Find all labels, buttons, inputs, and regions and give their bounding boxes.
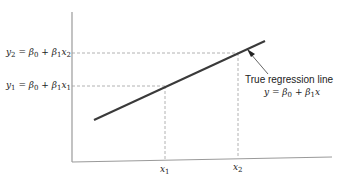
y1-sub: 1 bbox=[11, 84, 15, 92]
x1-label: x1 bbox=[160, 164, 170, 174]
y1-label: y1 = β0 + β1x1 bbox=[6, 80, 71, 90]
x2-label: x2 bbox=[233, 162, 243, 172]
x2-sub: 2 bbox=[238, 166, 242, 174]
eq-beta0-sub: 0 bbox=[288, 91, 292, 99]
beta0-sub: 0 bbox=[34, 51, 38, 59]
x-sub: 2 bbox=[67, 51, 71, 59]
beta0-sub: 0 bbox=[34, 84, 38, 92]
pointer-arrow-head bbox=[247, 49, 255, 57]
regression-diagram: y2 = β0 + β1x2 y1 = β0 + β1x1 x1 x2 True… bbox=[0, 0, 340, 180]
x1-sub: 1 bbox=[165, 168, 169, 176]
eq-x: x bbox=[315, 87, 320, 97]
x-axis bbox=[72, 157, 332, 162]
x-sub: 1 bbox=[67, 84, 71, 92]
pointer-arrow-shaft bbox=[250, 53, 268, 74]
regression-equation: y = β0 + β1x bbox=[264, 87, 320, 97]
y2-label: y2 = β0 + β1x2 bbox=[6, 47, 71, 57]
y2-sub: 2 bbox=[11, 51, 15, 59]
eq-y: y bbox=[264, 87, 269, 97]
eq-plus: + bbox=[295, 87, 303, 97]
regression-caption: True regression line bbox=[245, 74, 333, 85]
